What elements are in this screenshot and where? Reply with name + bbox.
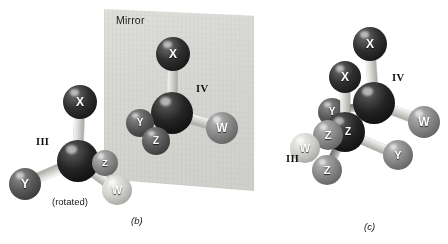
atom-label: X [341, 71, 349, 83]
atom-label: Y [137, 118, 144, 128]
structure-label-iii-panel-c: III [286, 153, 299, 164]
atom-y: Y [383, 140, 413, 170]
panel-c-caption: (c) [364, 221, 375, 232]
atom-label: Z [325, 130, 332, 141]
atom-label: W [300, 143, 310, 154]
atom-x: X [329, 61, 361, 93]
atom-label: Z [324, 165, 331, 176]
atom-label: Y [21, 178, 29, 190]
atom-label: X [366, 38, 374, 50]
atom-label: X [76, 96, 84, 108]
atom-label: Z [345, 127, 351, 137]
atom-label: W [112, 185, 122, 196]
rotated-note: (rotated) [52, 196, 88, 207]
atom-label: X [169, 48, 177, 60]
atom-label: W [418, 116, 429, 128]
atom-label: Y [394, 150, 401, 161]
figure-canvas: Mirror XYZWXYZWXYZWXYZWZ IIIIVIVIII (rot… [0, 0, 448, 244]
atom-label: Y [329, 107, 336, 117]
structure-label-iv-panel-c: IV [392, 72, 404, 83]
structure-label-iii-panel-b: III [36, 136, 49, 147]
atom-label: Z [102, 159, 108, 168]
atom-label: Z [153, 136, 159, 146]
atom-label: W [216, 122, 227, 134]
panel-b-caption: (b) [131, 215, 143, 226]
atom-z: Z [312, 155, 342, 185]
structure-label-iv-panel-b: IV [196, 83, 208, 94]
